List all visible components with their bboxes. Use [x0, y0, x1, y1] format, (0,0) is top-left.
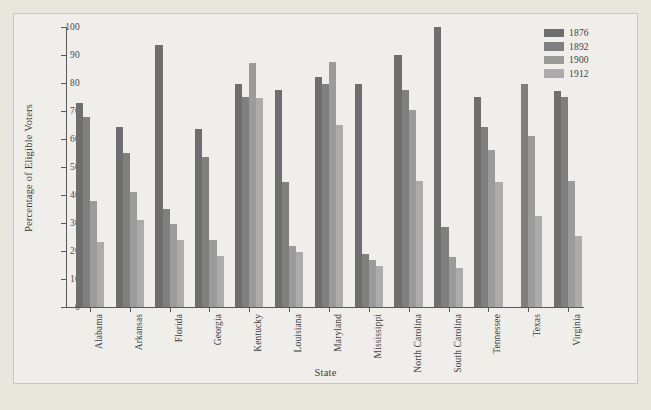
bar — [575, 236, 582, 307]
bar-group — [394, 26, 422, 307]
x-axis-category-label: Mississippi — [373, 314, 383, 358]
legend-label: 1912 — [569, 69, 589, 79]
bar — [554, 91, 561, 307]
bar-group — [434, 26, 462, 307]
x-axis-category-label: Alabama — [94, 314, 104, 349]
bar — [416, 181, 423, 307]
bar — [434, 27, 441, 307]
bar-group — [355, 26, 383, 307]
bar — [235, 84, 242, 307]
x-axis-category-label: Tennessee — [492, 314, 502, 354]
bar — [256, 98, 263, 307]
bar — [369, 260, 376, 307]
bar — [90, 201, 97, 307]
bar — [355, 84, 362, 307]
bar — [409, 110, 416, 307]
bar-group — [116, 26, 144, 307]
x-axis-category-label: Kentucky — [253, 314, 263, 352]
bar-group — [155, 26, 183, 307]
x-axis-category-label: Virginia — [572, 314, 582, 346]
legend-item[interactable]: 1900 — [544, 55, 589, 65]
bar — [163, 209, 170, 307]
bar — [195, 129, 202, 307]
legend-item[interactable]: 1912 — [544, 69, 589, 79]
bar — [289, 246, 296, 307]
legend-label: 1900 — [569, 55, 589, 65]
bar — [296, 252, 303, 307]
chart-figure: Percentage of Eligible Voters 0102030405… — [13, 13, 638, 384]
x-axis-category-label: North Carolina — [413, 314, 423, 373]
chart-legend: 1876189219001912 — [544, 28, 589, 79]
bar — [329, 62, 336, 307]
x-axis-line — [66, 307, 584, 308]
bar — [137, 220, 144, 307]
bar — [474, 97, 481, 307]
bar — [249, 63, 256, 307]
legend-label: 1892 — [569, 42, 589, 52]
bar — [76, 103, 83, 307]
bar — [209, 240, 216, 307]
bar — [394, 55, 401, 307]
x-axis-category-label: Texas — [532, 314, 542, 337]
bar — [322, 84, 329, 307]
bar-group — [76, 26, 104, 307]
legend-item[interactable]: 1892 — [544, 42, 589, 52]
plot-area: 0102030405060708090100 — [66, 27, 584, 308]
bar — [449, 257, 456, 307]
bar — [170, 224, 177, 307]
bar — [202, 157, 209, 307]
bar — [495, 182, 502, 307]
bar-group — [275, 26, 303, 307]
x-axis-title: State — [14, 367, 637, 378]
x-axis-category-label: Louisiana — [293, 314, 303, 352]
bar — [528, 136, 535, 307]
legend-swatch — [544, 29, 564, 38]
bar — [336, 125, 343, 307]
bar — [362, 254, 369, 307]
bar — [488, 150, 495, 307]
bar — [376, 266, 383, 307]
bar-group — [195, 26, 223, 307]
bar — [568, 181, 575, 307]
bar — [130, 192, 137, 307]
bar — [521, 84, 528, 307]
bar — [402, 90, 409, 307]
bar — [561, 97, 568, 307]
x-axis-category-label: Georgia — [213, 314, 223, 345]
bar — [177, 240, 184, 307]
legend-swatch — [544, 69, 564, 78]
bar — [456, 268, 463, 307]
y-axis-title: Percentage of Eligible Voters — [23, 103, 34, 231]
bar — [83, 117, 90, 307]
bar — [481, 127, 488, 307]
x-axis-category-label: Maryland — [333, 314, 343, 352]
legend-swatch — [544, 42, 564, 51]
bar — [242, 97, 249, 307]
bar-group — [514, 26, 542, 307]
bar — [155, 45, 162, 307]
bar — [123, 153, 130, 307]
bar — [217, 256, 224, 307]
bar — [282, 182, 289, 307]
legend-item[interactable]: 1876 — [544, 28, 589, 38]
bar — [315, 77, 322, 307]
legend-label: 1876 — [569, 28, 589, 38]
bar — [441, 227, 448, 307]
x-axis-category-label: Arkansas — [134, 314, 144, 350]
bar — [275, 90, 282, 307]
bar — [116, 127, 123, 307]
y-axis-title-wrap: Percentage of Eligible Voters — [19, 27, 37, 308]
bar-group — [235, 26, 263, 307]
bar-group — [315, 26, 343, 307]
bar-group — [474, 26, 502, 307]
x-axis-category-label: South Carolina — [453, 314, 463, 373]
bar — [535, 216, 542, 307]
x-axis-category-label: Florida — [174, 314, 184, 342]
bar — [97, 242, 104, 307]
legend-swatch — [544, 56, 564, 65]
